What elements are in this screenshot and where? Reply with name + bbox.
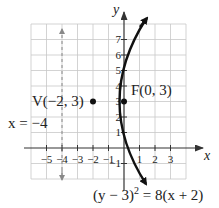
equation-label: (y − 3)2 = 8(x + 2) [93,185,203,204]
y-axis-label: y [111,2,120,17]
x-tick-label: 2 [152,153,158,165]
x-tick-label: −3 [72,153,84,165]
y-tick-label: −1 [109,157,121,169]
y-tick-label: 5 [116,64,122,76]
x-tick-label: 3 [168,153,174,165]
x-tick-label: −4 [56,153,68,165]
x-tick-label: −2 [87,153,99,165]
x-axis-label: x [203,148,211,163]
focus-point [121,99,127,105]
focus-label: F(0, 3) [131,82,172,99]
curve-arrow-top [140,18,147,27]
vertex-point [90,99,96,105]
x-tick-label: 1 [137,153,143,165]
directrix-label: x = −4 [8,115,48,131]
y-tick-label: 7 [116,33,122,45]
x-tick-label: −5 [41,153,53,165]
y-tick-label: 6 [116,49,122,61]
y-tick-label: 1 [116,126,122,138]
parabola-diagram: −5 −4 −3 −2 −1 1 2 3 1 2 3 4 5 6 7 −1 y … [0,0,219,208]
vertex-label: V(−2, 3) [32,93,84,110]
